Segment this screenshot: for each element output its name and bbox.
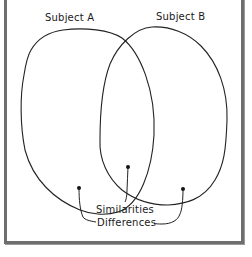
subject-a-circle (21, 29, 154, 214)
subject-b-circle (100, 27, 227, 205)
differences-label: Differences (97, 217, 156, 228)
similarities-label: Similarities (96, 204, 154, 215)
subject-b-label: Subject B (156, 11, 205, 22)
differences-pointer-left (79, 188, 96, 222)
differences-pointer-right (154, 189, 183, 224)
similarities-pointer-line (125, 167, 128, 202)
subject-a-label: Subject A (45, 12, 94, 23)
